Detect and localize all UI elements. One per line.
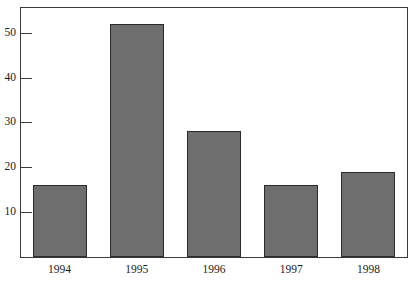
x-axis-tick-label: 1994 [21,264,98,276]
y-axis-tick-label: 30 [5,116,17,128]
x-axis-tick-label: 1998 [330,264,407,276]
plot-area [21,8,407,257]
bar [187,131,241,257]
y-axis-tick-label: 50 [5,27,17,39]
bar [341,172,395,257]
bar [264,185,318,257]
y-axis-tick-label: 10 [5,206,17,218]
y-axis-tick-label: 40 [5,72,17,84]
x-axis-tick-label: 1996 [175,264,252,276]
y-axis-tick-label: 20 [5,161,17,173]
bar-chart: 1020304050 19941995199619971998 [0,0,414,282]
bar [33,185,87,257]
x-axis-tick-label: 1997 [253,264,330,276]
bar [110,24,164,257]
x-axis-tick-label: 1995 [98,264,175,276]
